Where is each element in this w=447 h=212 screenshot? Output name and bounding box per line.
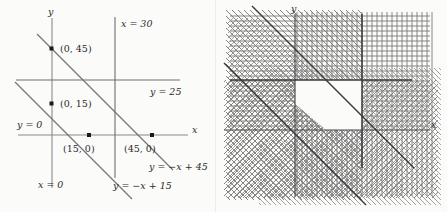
point-label-15-0: (15, 0) [63, 143, 95, 154]
point-label-0-15: (0, 15) [60, 98, 92, 109]
left-line-diagram-panel: y x x = 30 y = 25 y = 0 x = 0 y = −x + 4… [0, 0, 215, 212]
label-x-equals-0: x = 0 [38, 179, 63, 190]
label-y-equals-neg-x-plus-45: y = −x + 45 [148, 161, 208, 172]
point-label-0-45: (0, 45) [60, 43, 92, 54]
label-x-equals-30: x = 30 [121, 18, 152, 29]
point-marker-0-15 [50, 102, 54, 106]
left-diagram-svg: y x x = 30 y = 25 y = 0 x = 0 y = −x + 4… [0, 0, 215, 212]
point-marker-0-45 [50, 47, 54, 51]
point-marker-15-0 [87, 133, 91, 137]
label-y-equals-0: y = 0 [16, 119, 42, 130]
y-axis-label: y [47, 6, 54, 17]
point-label-45-0: (45, 0) [124, 143, 156, 154]
point-marker-45-0 [150, 133, 154, 137]
right-y-axis-label: y [290, 3, 297, 14]
right-diagram-svg: y x [216, 0, 447, 212]
figure-root: y x x = 30 y = 25 y = 0 x = 0 y = −x + 4… [0, 0, 447, 212]
right-x-axis-label: x [431, 119, 437, 130]
label-y-equals-25: y = 25 [149, 86, 181, 97]
x-axis-label: x [192, 124, 198, 135]
right-shaded-regions-panel: y x [216, 0, 447, 212]
label-y-equals-neg-x-plus-15: y = −x + 15 [112, 180, 172, 191]
